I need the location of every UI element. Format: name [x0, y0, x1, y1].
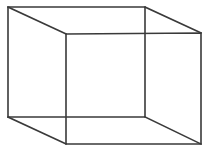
figure-canvas [0, 0, 209, 157]
necker-cube-figure [0, 0, 209, 157]
